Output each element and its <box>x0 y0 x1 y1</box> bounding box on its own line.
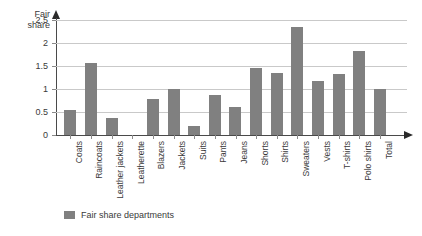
x-axis-label-group: CoatsRaincoatsLeather jacketsLeatherette… <box>56 141 407 201</box>
x-axis-tick-label: Total <box>384 141 394 159</box>
bar <box>168 89 180 135</box>
bar-slot <box>122 20 143 135</box>
bar-chart: Fair share 00.511.522.5 CoatsRaincoatsLe… <box>0 0 422 236</box>
x-axis-tick-mark <box>339 135 340 139</box>
bar <box>64 110 76 135</box>
bar-slot <box>184 20 205 135</box>
bar <box>291 27 303 135</box>
x-axis-tick-mark <box>236 135 237 139</box>
bar-slot <box>287 20 308 135</box>
x-axis-tick-mark <box>359 135 360 139</box>
bar <box>353 51 365 135</box>
x-axis-tick-label: Jeans <box>239 141 249 164</box>
x-axis-tick-label: Shirts <box>280 141 290 163</box>
legend-label-fair-share: Fair share departments <box>81 210 174 220</box>
bar <box>209 95 221 135</box>
bar <box>106 118 118 135</box>
x-axis-tick-mark <box>112 135 113 139</box>
x-axis-tick-mark <box>215 135 216 139</box>
bar <box>271 73 283 135</box>
x-axis-tick-label: Vests <box>322 141 332 162</box>
x-axis-tick-mark <box>256 135 257 139</box>
bar-slot <box>81 20 102 135</box>
x-axis-tick-label: Shorts <box>260 141 270 166</box>
x-axis-tick-mark <box>91 135 92 139</box>
bar-slot <box>246 20 267 135</box>
y-axis-tick-group: 00.511.522.5 <box>0 0 56 236</box>
bar-slot <box>328 20 349 135</box>
legend-swatch-fair-share <box>64 211 75 219</box>
x-axis-tick-mark <box>132 135 133 139</box>
bar-slot <box>370 20 391 135</box>
bar-slot <box>101 20 122 135</box>
bar-slot <box>349 20 370 135</box>
bar <box>229 107 241 135</box>
y-axis-tick-label: 1.5 <box>35 61 48 71</box>
bar <box>85 63 97 135</box>
y-axis-tick-label: 2.5 <box>35 15 48 25</box>
bar <box>147 99 159 135</box>
x-axis-tick-mark <box>297 135 298 139</box>
bar <box>188 126 200 135</box>
y-axis-tick-label: 0.5 <box>35 107 48 117</box>
x-axis-tick-label: Suits <box>198 141 208 160</box>
bar-slot <box>163 20 184 135</box>
bar-slot <box>143 20 164 135</box>
bar <box>333 74 345 135</box>
x-axis-tick-mark <box>380 135 381 139</box>
bar-slot <box>225 20 246 135</box>
plot-bars <box>56 20 407 135</box>
x-axis-tick-label: Blazers <box>156 141 166 169</box>
y-axis-tick-label: 2 <box>43 38 48 48</box>
x-axis-tick-label: Jackets <box>177 141 187 170</box>
x-axis-tick-label: Sweaters <box>301 141 311 176</box>
x-axis-line <box>56 135 406 136</box>
bar <box>312 81 324 135</box>
bar-slot <box>60 20 81 135</box>
x-axis-tick-mark <box>318 135 319 139</box>
x-axis-tick-label: Coats <box>74 141 84 163</box>
x-axis-tick-label: T-shirts <box>342 141 352 169</box>
x-axis-tick-label: Polo shirts <box>363 141 373 181</box>
x-axis-tick-mark <box>194 135 195 139</box>
bar <box>374 89 386 135</box>
x-axis-tick-mark <box>153 135 154 139</box>
x-axis-tick-label: Pants <box>218 141 228 163</box>
bar-slot <box>308 20 329 135</box>
x-axis-tick-label: Raincoats <box>94 141 104 179</box>
y-axis-tick-label: 0 <box>43 130 48 140</box>
x-axis-tick-mark <box>70 135 71 139</box>
bar <box>250 68 262 135</box>
x-axis-tick-mark <box>277 135 278 139</box>
chart-legend: Fair share departments <box>64 210 174 220</box>
x-axis-tick-mark <box>174 135 175 139</box>
bar-slot <box>205 20 226 135</box>
x-axis-tick-label: Leatherette <box>136 141 146 184</box>
y-axis-tick-label: 1 <box>43 84 48 94</box>
x-axis-tick-label: Leather jackets <box>115 141 125 199</box>
bar-slot <box>266 20 287 135</box>
